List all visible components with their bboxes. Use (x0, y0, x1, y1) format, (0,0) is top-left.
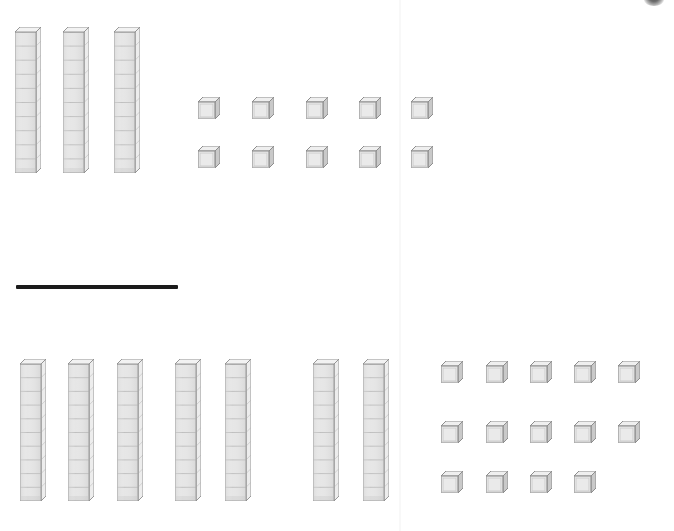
ones-unit-cube (530, 361, 552, 383)
ones-unit-cube (359, 146, 381, 168)
ones-unit-cube (198, 146, 220, 168)
ones-unit-cube (574, 471, 596, 493)
ones-unit-cube (530, 421, 552, 443)
tens-rod (313, 359, 339, 501)
ones-unit-cube (359, 97, 381, 119)
ones-unit-cube (252, 146, 274, 168)
ones-unit-cube (574, 361, 596, 383)
tens-rod (114, 27, 140, 173)
ones-unit-cube (252, 97, 274, 119)
ones-unit-cube (574, 421, 596, 443)
base-ten-blocks-worksheet (0, 0, 674, 531)
tens-rod (68, 359, 94, 501)
top-addend-group (0, 0, 674, 200)
ones-unit-cube (411, 97, 433, 119)
tens-rod (15, 27, 41, 173)
sum-bar (16, 285, 178, 289)
tens-rod (175, 359, 201, 501)
tens-rod (363, 359, 389, 501)
ones-unit-cube (486, 421, 508, 443)
ones-unit-cube (486, 361, 508, 383)
tens-rod (225, 359, 251, 501)
ones-unit-cube (618, 421, 640, 443)
tens-rod (117, 359, 143, 501)
ones-unit-cube (306, 146, 328, 168)
ones-unit-cube (441, 471, 463, 493)
ones-unit-cube (306, 97, 328, 119)
ones-unit-cube (441, 361, 463, 383)
ones-unit-cube (530, 471, 552, 493)
ones-unit-cube (441, 421, 463, 443)
ones-unit-cube (618, 361, 640, 383)
tens-rod (20, 359, 46, 501)
ones-unit-cube (198, 97, 220, 119)
ones-unit-cube (486, 471, 508, 493)
tens-rod (63, 27, 89, 173)
ones-unit-cube (411, 146, 433, 168)
